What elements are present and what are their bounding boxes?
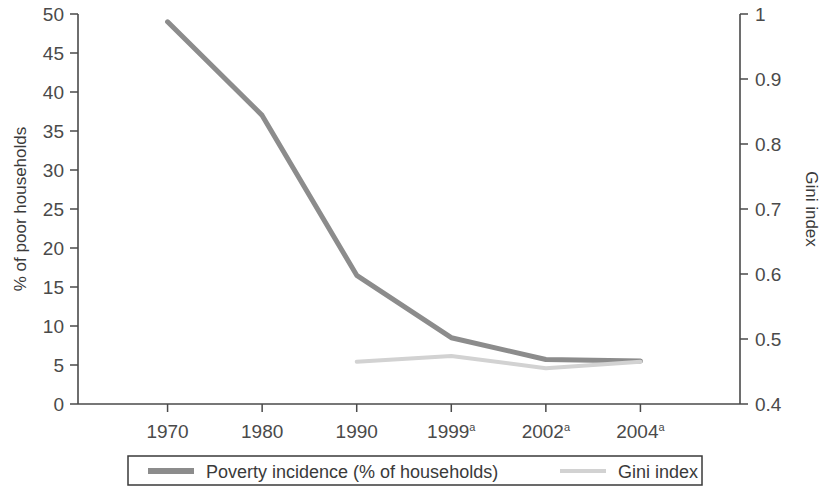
series-layer — [168, 22, 641, 368]
left-axis: 05101520253035404550 % of poor household… — [11, 4, 78, 415]
left-tick-label: 30 — [43, 160, 64, 181]
line-chart-figure: 05101520253035404550 % of poor household… — [0, 0, 827, 489]
legend-label-gini: Gini index — [618, 462, 698, 482]
x-tick-label: 2004a — [616, 421, 665, 442]
left-axis-ticks: 05101520253035404550 — [43, 4, 78, 415]
left-tick-label: 5 — [53, 355, 64, 376]
left-tick-label: 0 — [53, 394, 64, 415]
left-tick-label: 10 — [43, 316, 64, 337]
left-tick-label: 20 — [43, 238, 64, 259]
right-tick-label: 0.9 — [755, 69, 781, 90]
x-tick-label: 1999a — [427, 421, 476, 442]
chart-legend: Poverty incidence (% of households)Gini … — [128, 456, 702, 485]
right-tick-label: 0.8 — [755, 134, 781, 155]
x-axis-tick-labels: 1970198019901999a2002a2004a — [146, 421, 665, 442]
y-axis-title: % of poor households — [11, 127, 30, 291]
chart-container: 05101520253035404550 % of poor household… — [0, 0, 827, 489]
right-tick-label: 0.7 — [755, 199, 781, 220]
x-axis-ticks — [168, 404, 641, 412]
right-tick-label: 0.4 — [755, 394, 782, 415]
x-tick-label: 1990 — [336, 421, 378, 442]
bottom-axis: 1970198019901999a2002a2004a — [78, 404, 740, 442]
left-tick-label: 50 — [43, 4, 64, 25]
right-tick-label: 0.6 — [755, 264, 781, 285]
right-tick-label: 1 — [755, 4, 766, 25]
left-tick-label: 45 — [43, 43, 64, 64]
legend-items: Poverty incidence (% of households)Gini … — [148, 462, 698, 482]
right-axis: 0.40.50.60.70.80.91 Gini index — [740, 4, 821, 415]
left-tick-label: 25 — [43, 199, 64, 220]
y2-axis-title: Gini index — [802, 171, 821, 247]
right-tick-label: 0.5 — [755, 329, 781, 350]
left-tick-label: 35 — [43, 121, 64, 142]
x-tick-label: 1980 — [241, 421, 283, 442]
x-tick-label: 2002a — [522, 421, 571, 442]
poverty-incidence-line — [168, 22, 641, 361]
legend-label-poverty: Poverty incidence (% of households) — [206, 462, 498, 482]
left-tick-label: 40 — [43, 82, 64, 103]
left-tick-label: 15 — [43, 277, 64, 298]
x-tick-label: 1970 — [146, 421, 188, 442]
right-axis-ticks: 0.40.50.60.70.80.91 — [740, 4, 782, 415]
